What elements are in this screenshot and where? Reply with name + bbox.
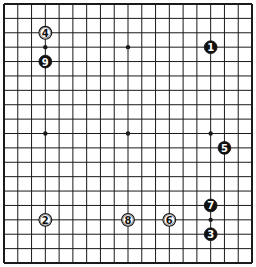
move-number: 5: [221, 143, 228, 154]
star-point: [208, 131, 212, 135]
stone-black-1: 1: [204, 41, 217, 54]
move-number: 7: [207, 200, 214, 211]
star-point: [208, 218, 212, 222]
stone-black-9: 9: [39, 55, 52, 68]
move-number: 2: [42, 215, 49, 226]
move-number: 4: [42, 28, 49, 39]
move-number: 3: [207, 229, 214, 240]
move-number: 9: [42, 57, 49, 68]
move-number: 1: [207, 42, 214, 53]
move-number: 8: [125, 215, 132, 226]
stone-black-5: 5: [218, 141, 231, 154]
star-point: [126, 45, 130, 49]
stone-black-7: 7: [204, 199, 217, 212]
stone-black-3: 3: [204, 228, 217, 241]
go-board-svg: 123456789: [0, 0, 256, 267]
stone-white-8: 8: [122, 213, 135, 226]
star-point: [126, 131, 130, 135]
move-number: 6: [166, 215, 173, 226]
star-point: [43, 45, 47, 49]
star-point: [43, 131, 47, 135]
stone-white-4: 4: [39, 26, 52, 39]
stone-white-2: 2: [39, 213, 52, 226]
go-board: 123456789: [0, 0, 256, 267]
stone-white-6: 6: [163, 213, 176, 226]
